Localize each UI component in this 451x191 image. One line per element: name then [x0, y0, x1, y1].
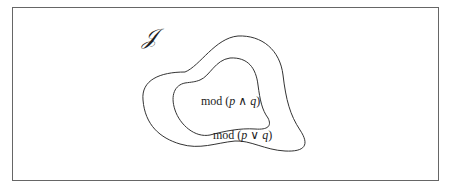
venn-diagram: 𝒥 mod (p ∧ q) mod (p ∨ q)	[0, 0, 451, 191]
outer-region-label: mod (p ∨ q)	[213, 128, 272, 142]
inner-region-label: mod (p ∧ q)	[201, 94, 260, 108]
universe-symbol: 𝒥	[141, 24, 165, 49]
